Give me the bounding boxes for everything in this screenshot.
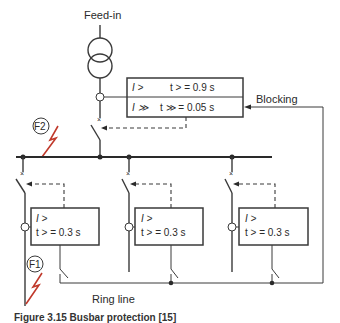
feeder-3: × I > t > = 0.3 s [225, 157, 308, 285]
fault-f2-marker: F2 [33, 118, 58, 157]
blocking-label: Blocking [256, 93, 298, 105]
ring-line-label: Ring line [92, 293, 135, 305]
busbar-protection-diagram: Feed-in × I > t > = 0.9 s I ≫ t ≫ = 0.05… [0, 0, 340, 323]
incomer-circuit-breaker-icon [91, 125, 100, 157]
figure-caption: Figure 3.15 Busbar protection [15] [14, 312, 176, 323]
svg-text:×: × [126, 170, 130, 177]
fault-lightning-icon [26, 273, 42, 304]
feeder-2: × I > t > = 0.3 s [122, 157, 203, 285]
svg-text:×: × [20, 170, 24, 177]
feeder-3-relay-setting: t > = 0.3 s [245, 227, 289, 238]
current-transformer-icon [228, 223, 236, 231]
svg-text:×: × [229, 170, 233, 177]
svg-text:×: × [97, 116, 101, 123]
blocking-arrow-icon [244, 105, 251, 110]
incomer-relay: I > t > = 0.9 s I ≫ t ≫ = 0.05 s [127, 78, 243, 117]
incomer-relay-element-1: I > [132, 82, 144, 93]
feeder-3-relay-element: I > [245, 213, 257, 224]
current-transformer-icon [96, 93, 104, 101]
transformer-icon [88, 38, 112, 78]
current-transformer-icon [125, 223, 133, 231]
feed-in-label: Feed-in [84, 9, 121, 21]
svg-text:F1: F1 [29, 259, 41, 270]
feeder-1-relay-setting: t > = 0.3 s [36, 227, 80, 238]
incomer-relay-setting-2: t ≫ = 0.05 s [160, 102, 214, 113]
current-transformer-icon [21, 223, 29, 231]
feeder-1-relay-element: I > [36, 213, 48, 224]
feeder-2-relay-setting: t > = 0.3 s [141, 227, 185, 238]
incomer-relay-element-2: I ≫ [132, 102, 149, 113]
fault-f1-marker: F1 [26, 256, 43, 304]
incomer-relay-setting-1: t > = 0.9 s [170, 82, 214, 93]
svg-text:F2: F2 [34, 121, 46, 132]
feeder-2-relay-element: I > [141, 213, 153, 224]
